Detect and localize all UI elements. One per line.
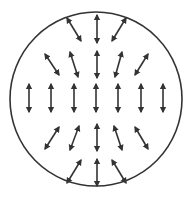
double-arrow-icon (45, 54, 59, 75)
double-arrow-icon (115, 52, 122, 77)
vector-field-diagram (0, 0, 193, 197)
double-arrow-icon (70, 52, 78, 77)
double-arrow-icon (67, 18, 81, 41)
double-arrow-icon (135, 54, 148, 75)
arrow-field (29, 15, 163, 186)
double-arrow-icon (112, 160, 126, 183)
double-arrow-icon (114, 126, 122, 150)
double-arrow-icon (135, 127, 148, 149)
double-arrow-icon (112, 18, 126, 41)
double-arrow-icon (67, 160, 81, 183)
double-arrow-icon (70, 126, 79, 150)
double-arrow-icon (45, 127, 59, 149)
